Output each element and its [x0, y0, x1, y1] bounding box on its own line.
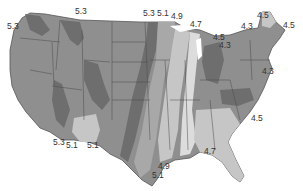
contour-label-ny-north: 4.3 [241, 22, 253, 31]
contour-label-nd-east-1: 5.3 [143, 9, 155, 18]
contour-label-me-west: 4.5 [257, 11, 269, 20]
contour-label-gulf-fl: 4.7 [204, 147, 216, 156]
us-contour-map [0, 0, 303, 191]
light-band-southeast [194, 108, 244, 182]
contour-label-me-east: 4.5 [283, 21, 295, 30]
contour-label-tx-west-1: 5.3 [53, 138, 65, 147]
contour-label-wa-west: 5.3 [7, 22, 19, 31]
contour-label-oh-2: 4.3 [219, 41, 231, 50]
contour-label-tx-mid: 5.1 [87, 141, 99, 150]
contour-label-mid-atlantic: 4.3 [262, 67, 274, 76]
contour-label-tx-coast-2: 5.1 [152, 171, 164, 180]
contour-label-nd-east-2: 5.1 [157, 9, 169, 18]
contour-label-mi-north: 4.7 [190, 20, 202, 29]
contour-label-nc-coast: 4.5 [251, 114, 263, 123]
contour-label-mn: 4.9 [171, 12, 183, 21]
contour-label-tx-west-2: 5.1 [66, 141, 78, 150]
contour-label-wa-north: 5.3 [75, 7, 87, 16]
